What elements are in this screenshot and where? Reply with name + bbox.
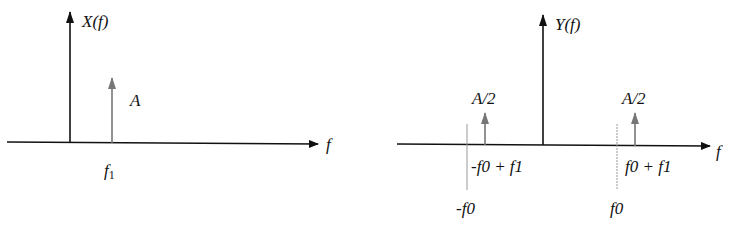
right-impulse-neg-label: A/2	[471, 89, 496, 108]
left-y-label: X(f)	[81, 12, 109, 31]
right-x-label: f	[716, 142, 723, 161]
left-x-label: f	[326, 135, 333, 154]
tick-neg-f0-label: -f0	[456, 199, 475, 218]
right-impulse-pos-label: A/2	[621, 89, 646, 108]
left-plot: X(f) f A f1	[7, 12, 333, 182]
left-impulse-label: A	[129, 91, 141, 110]
tick-pos-f0-label: f0	[610, 199, 624, 218]
right-impulse-neg-position: -f0 + f1	[471, 157, 523, 176]
right-y-label: Y(f)	[555, 15, 581, 34]
right-plot: Y(f) f -f0 f0 A/2 -f0 + f1 A/2 f0 + f1	[397, 15, 723, 218]
right-impulse-pos-position: f0 + f1	[625, 157, 671, 176]
left-x-axis	[7, 142, 318, 144]
left-impulse-position: f1	[104, 161, 115, 182]
right-x-axis	[397, 144, 710, 146]
spectrum-diagram: X(f) f A f1 Y(f) f -f0 f0 A/2 -f0 + f1 A…	[0, 0, 730, 228]
